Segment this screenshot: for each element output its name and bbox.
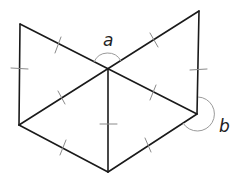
edge-l-b [19,125,108,172]
angle-b-label: b [219,116,230,136]
geometry-diagram: a b [0,0,241,182]
angle-a-arc [94,53,121,62]
tick-mark [11,68,28,69]
tick-mark [58,91,65,104]
edge-tr-r [197,11,199,114]
angle-a-label: a [103,30,113,50]
edge-l-tr [19,11,199,125]
tick-mark [150,33,158,47]
edge-b-r [108,114,197,172]
edge-tl-l [19,24,20,125]
angle-b-arc [183,97,214,131]
tick-mark [190,69,207,70]
